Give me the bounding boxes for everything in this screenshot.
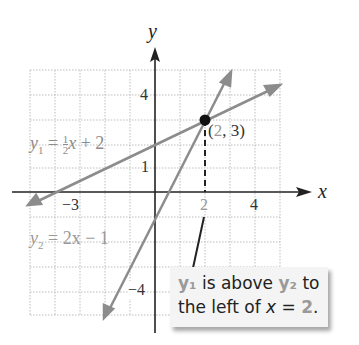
- callout-box: y₁ is above y₂ to the left of x = 2.: [170, 267, 328, 327]
- arrow-icon: [221, 72, 231, 86]
- point-label: (2, 3): [208, 121, 245, 141]
- y-axis-label: y: [148, 20, 157, 43]
- equation-y2: y2 = 2x − 1: [30, 228, 109, 251]
- equation-y1: y1 = 1 2 x + 2: [30, 133, 104, 156]
- tick-label-x-neg3: −3: [62, 196, 79, 214]
- tick-label-y-4: 4: [140, 86, 148, 104]
- tick-label-x-2: 2: [200, 196, 208, 214]
- tick-label-x-4: 4: [250, 196, 258, 214]
- arrow-icon: [265, 85, 280, 95]
- x-axis-label: x: [318, 180, 327, 203]
- tick-label-y-1: 1: [141, 158, 149, 176]
- tick-label-y-neg4: −4: [128, 281, 145, 299]
